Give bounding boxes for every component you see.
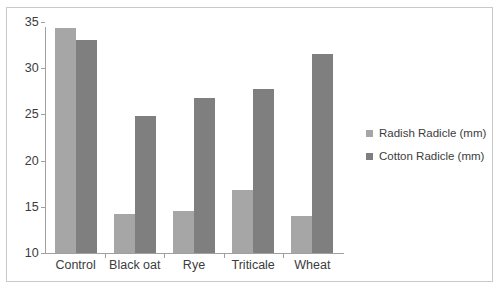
x-axis-tick-mark [224, 254, 225, 258]
y-axis-tick-label: 25 [25, 107, 39, 121]
y-axis-tick-label: 35 [25, 15, 39, 29]
y-axis-tick-label: 15 [25, 200, 39, 214]
bar [194, 98, 215, 253]
legend-item: Radish Radicle (mm) [366, 128, 486, 140]
chart-legend: Radish Radicle (mm)Cotton Radicle (mm) [366, 128, 486, 173]
x-axis-tick-mark [164, 254, 165, 258]
bar [114, 214, 135, 253]
y-axis-tick-labels: 101520253035 [0, 0, 39, 290]
y-axis-tick-mark [41, 114, 45, 115]
bar [135, 116, 156, 253]
x-axis-tick-mark [105, 254, 106, 258]
bar-group [283, 22, 342, 253]
bar-group [164, 22, 223, 253]
y-axis-tick-mark [41, 253, 45, 254]
bar-group [105, 22, 164, 253]
legend-label: Radish Radicle (mm) [379, 128, 486, 140]
bar [232, 190, 253, 253]
x-axis-category-label: Black oat [105, 258, 164, 272]
bar-group [46, 22, 105, 253]
x-axis-line [45, 253, 344, 254]
bar-group [224, 22, 283, 253]
x-axis-category-label: Rye [164, 258, 223, 272]
bar [76, 40, 97, 253]
y-axis-tick-label: 10 [25, 246, 39, 260]
x-axis-category-label: Wheat [283, 258, 342, 272]
plot-area [46, 22, 342, 253]
bar-chart-figure: 101520253035 Radish Radicle (mm)Cotton R… [0, 0, 500, 290]
legend-item: Cotton Radicle (mm) [366, 151, 486, 163]
bar [55, 28, 76, 253]
y-axis-tick-mark [41, 68, 45, 69]
legend-swatch-icon [366, 153, 373, 160]
bar [312, 54, 333, 253]
bar [173, 211, 194, 253]
legend-label: Cotton Radicle (mm) [379, 151, 484, 163]
y-axis-tick-label: 20 [25, 154, 39, 168]
x-axis-category-label: Control [46, 258, 105, 272]
y-axis-tick-mark [41, 161, 45, 162]
y-axis-tick-mark [41, 22, 45, 23]
x-axis-category-label: Triticale [224, 258, 283, 272]
bar [291, 216, 312, 253]
y-axis-tick-label: 30 [25, 61, 39, 75]
legend-swatch-icon [366, 130, 373, 137]
x-axis-tick-mark [283, 254, 284, 258]
y-axis-tick-mark [41, 207, 45, 208]
bar [253, 89, 274, 253]
